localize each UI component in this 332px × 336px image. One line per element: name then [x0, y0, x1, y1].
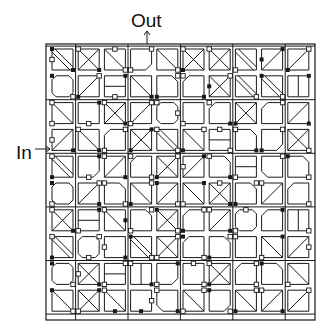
port-node-icon	[280, 154, 284, 158]
switch-cell	[52, 156, 73, 177]
junction-dot-icon	[233, 202, 237, 206]
junction-dot-icon	[281, 208, 285, 212]
switch-cell	[288, 183, 309, 204]
switch-cell	[104, 49, 125, 70]
junction-dot-icon	[129, 202, 133, 206]
switch-cell	[183, 210, 204, 231]
switch-cell	[183, 103, 204, 124]
switch-cell	[104, 290, 125, 311]
switch-cell	[78, 76, 99, 97]
switch-cell	[104, 156, 125, 177]
junction-dot-icon	[233, 122, 237, 126]
junction-dot-icon	[50, 261, 54, 265]
junction-dot-icon	[207, 282, 211, 286]
port-node-icon	[176, 229, 180, 233]
switch-cell	[157, 263, 178, 284]
port-node-icon	[76, 272, 80, 276]
switch-cell	[52, 129, 73, 150]
switch-cell	[52, 183, 73, 204]
junction-dot-icon	[123, 175, 127, 179]
port-node-icon	[254, 181, 258, 185]
junction-dot-icon	[123, 122, 127, 126]
junction-dot-icon	[150, 127, 154, 131]
switch-cell	[288, 210, 309, 231]
junction-dot-icon	[155, 175, 159, 179]
port-node-icon	[50, 154, 54, 158]
port-node-icon	[181, 165, 185, 169]
port-node-icon	[176, 74, 180, 78]
switch-cell	[288, 290, 309, 311]
switch-cell	[235, 183, 256, 204]
switch-cell	[235, 156, 256, 177]
switch-cell	[288, 103, 309, 124]
port-node-icon	[307, 148, 311, 152]
port-node-icon	[280, 100, 284, 104]
switch-cell	[131, 76, 152, 97]
switch-cell	[209, 76, 230, 97]
port-node-icon	[176, 148, 180, 152]
switch-cell	[288, 237, 309, 258]
port-node-icon	[207, 261, 211, 265]
switch-cell	[209, 210, 230, 231]
port-node-icon	[202, 208, 206, 212]
port-node-icon	[218, 181, 222, 185]
network-diagram	[0, 0, 332, 336]
switch-cell	[235, 49, 256, 70]
port-node-icon	[228, 74, 232, 78]
junction-dot-icon	[181, 235, 185, 239]
port-node-icon	[202, 288, 206, 292]
junction-dot-icon	[281, 309, 285, 313]
port-node-icon	[50, 121, 54, 125]
switch-cell	[131, 49, 152, 70]
port-node-icon	[50, 138, 54, 142]
port-node-icon	[149, 181, 153, 185]
port-node-icon	[181, 47, 185, 51]
junction-dot-icon	[207, 288, 211, 292]
junction-dot-icon	[228, 175, 232, 179]
port-node-icon	[128, 229, 132, 233]
junction-dot-icon	[123, 256, 127, 260]
junction-dot-icon	[202, 95, 206, 99]
switch-cell	[104, 210, 125, 231]
port-node-icon	[50, 208, 54, 212]
port-node-icon	[307, 288, 311, 292]
switch-cell	[157, 49, 178, 70]
switch-cell	[157, 156, 178, 177]
switch-cell	[262, 76, 283, 97]
junction-dot-icon	[50, 288, 54, 292]
junction-dot-icon	[150, 95, 154, 99]
junction-dot-icon	[286, 68, 290, 72]
output-label: Out	[131, 11, 162, 30]
junction-dot-icon	[260, 58, 264, 62]
switch-cell	[262, 49, 283, 70]
port-node-icon	[181, 121, 185, 125]
junction-dot-icon	[150, 282, 154, 286]
junction-dot-icon	[254, 148, 258, 152]
port-node-icon	[207, 47, 211, 51]
junction-dot-icon	[97, 154, 101, 158]
switch-cell	[288, 49, 309, 70]
switch-cell	[52, 263, 73, 284]
switch-cell	[157, 103, 178, 124]
port-node-icon	[228, 234, 232, 238]
port-node-icon	[102, 245, 106, 249]
junction-dot-icon	[233, 309, 237, 313]
switch-cell	[104, 76, 125, 97]
switch-cell	[78, 129, 99, 150]
port-node-icon	[254, 261, 258, 265]
port-node-icon	[280, 95, 284, 99]
switch-cell	[235, 237, 256, 258]
junction-dot-icon	[129, 235, 133, 239]
junction-dot-icon	[50, 175, 54, 179]
port-node-icon	[280, 127, 284, 131]
port-node-icon	[181, 309, 185, 313]
junction-dot-icon	[50, 256, 54, 260]
port-node-icon	[71, 282, 75, 286]
port-node-icon	[102, 148, 106, 152]
port-node-icon	[50, 234, 54, 238]
port-node-icon	[259, 181, 263, 185]
port-node-icon	[244, 208, 248, 212]
port-node-icon	[102, 282, 106, 286]
port-node-icon	[218, 127, 222, 131]
switch-cell	[104, 183, 125, 204]
